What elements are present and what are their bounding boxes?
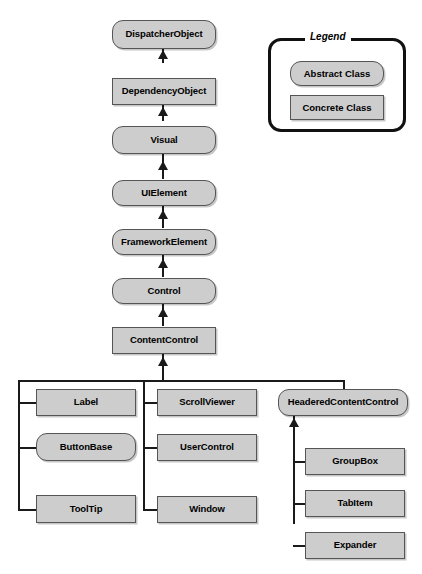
class-hierarchy-diagram: DispatcherObject DependencyObject Visual… [0,0,422,574]
class-node-buttonbase: ButtonBase [36,433,136,461]
column-two-stub-usercontrol [143,447,157,449]
class-node-visual: Visual [112,126,216,154]
class-node-groupbox: GroupBox [305,448,405,475]
spine-arrowhead-5 [158,259,168,268]
class-node-tabitem: TabItem [305,490,405,517]
headered-children-bus [293,416,295,524]
spine-arrowhead-3 [158,161,168,170]
legend-title: Legend [305,31,351,42]
legend-swatch-abstract: Abstract Class [290,61,384,86]
class-node-dependencyobject: DependencyObject [112,78,216,105]
class-node-window: Window [157,496,257,523]
contentcontrol-fanout-arrowhead [158,357,168,366]
column-two-stub-scrollviewer [143,402,157,404]
spine-arrowhead-4 [158,210,168,219]
column-one-stub-buttonbase [18,447,36,449]
class-node-contentcontrol: ContentControl [112,327,216,354]
column-one-bus [18,380,20,510]
column-one-stub-label [18,402,36,404]
column-three-stem [343,380,345,389]
class-node-headeredcontentcontrol: HeaderedContentControl [278,389,408,416]
spine-arrowhead-2 [158,107,168,116]
class-node-scrollviewer: ScrollViewer [157,389,257,416]
class-node-usercontrol: UserControl [157,434,257,461]
class-node-control: Control [112,278,216,304]
class-node-tooltip: ToolTip [36,495,136,523]
column-two-bus [143,380,145,510]
headered-children-arrowhead [289,418,299,427]
spine-arrowhead-6 [158,308,168,317]
class-node-label: Label [36,389,136,416]
class-node-frameworkelement: FrameworkElement [112,229,216,255]
headered-stub-tabitem [293,503,305,505]
headered-stub-expander [293,545,305,547]
fanout-bus [18,380,344,382]
column-one-stub-tooltip [18,509,36,511]
class-node-uielement: UIElement [112,180,216,206]
legend-swatch-concrete: Concrete Class [290,95,384,120]
class-node-dispatcherobject: DispatcherObject [112,20,216,49]
column-two-stub-window [143,509,157,511]
headered-stub-groupbox [293,461,305,463]
spine-arrowhead-1 [158,50,168,59]
class-node-expander: Expander [305,532,405,559]
